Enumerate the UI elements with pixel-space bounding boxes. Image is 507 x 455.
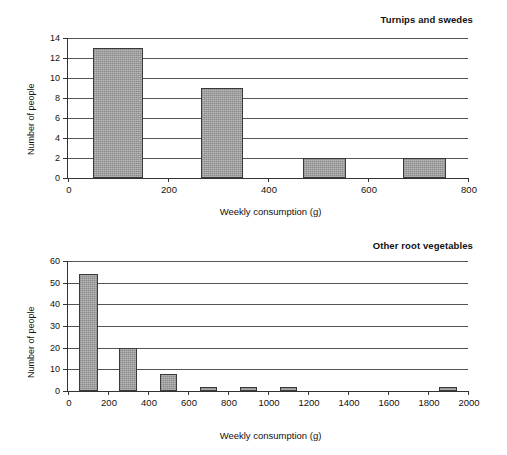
x-axis-tick-label: 1200 [298, 397, 319, 408]
bar [201, 88, 244, 178]
plot-area: 0102030405060020040060080010001200140016… [67, 261, 468, 392]
y-axis-tick: 60 [63, 261, 68, 262]
y-axis-tick-label: 4 [55, 133, 60, 143]
x-axis-tick-label: 600 [181, 397, 197, 408]
y-axis-tick-label: 8 [55, 93, 60, 103]
x-axis-tick: 800 [468, 178, 469, 182]
bar [119, 348, 137, 391]
x-axis-tick: 1800 [428, 391, 429, 395]
x-axis-tick: 0 [68, 391, 69, 395]
y-axis-tick-label: 0 [55, 386, 60, 396]
bar [303, 158, 346, 178]
x-axis-label: Weekly consumption (g) [0, 206, 507, 217]
y-axis-tick-label: 30 [50, 321, 60, 331]
x-axis-tick-label: 1600 [378, 397, 399, 408]
y-axis-tick: 4 [63, 138, 68, 139]
gridline-horizontal [68, 304, 468, 305]
y-axis-tick: 50 [63, 283, 68, 284]
plot-area: 024681012140200400600800 [67, 38, 468, 179]
x-axis-tick: 600 [188, 391, 189, 395]
bar [79, 274, 98, 391]
x-axis-tick: 1200 [308, 391, 309, 395]
x-axis-tick: 800 [228, 391, 229, 395]
y-axis-label: Number of people [26, 83, 36, 155]
x-axis-tick-label: 800 [461, 184, 477, 195]
bar [240, 387, 257, 391]
x-axis-tick: 400 [148, 391, 149, 395]
gridline-horizontal [68, 261, 468, 262]
y-axis-tick-label: 20 [50, 343, 60, 353]
bar [280, 387, 297, 391]
y-axis-tick-label: 10 [50, 73, 60, 83]
chart-title: Turnips and swedes [381, 14, 473, 25]
y-axis-tick: 30 [63, 326, 68, 327]
y-axis-tick-label: 60 [50, 256, 60, 266]
x-axis-tick: 200 [108, 391, 109, 395]
x-axis-tick: 200 [168, 178, 169, 182]
x-axis-tick: 400 [268, 178, 269, 182]
y-axis-tick-label: 0 [55, 173, 60, 183]
y-axis-tick: 14 [63, 38, 68, 39]
x-axis-tick-label: 400 [141, 397, 157, 408]
y-axis-tick-label: 2 [55, 153, 60, 163]
bar [160, 374, 177, 391]
y-axis-tick-label: 12 [50, 53, 60, 63]
y-axis-tick-label: 50 [50, 278, 60, 288]
x-axis-tick-label: 0 [66, 397, 71, 408]
chart-title: Other root vegetables [373, 240, 473, 251]
y-axis-tick: 40 [63, 304, 68, 305]
bar [403, 158, 446, 178]
x-axis-tick-label: 1000 [258, 397, 279, 408]
gridline-horizontal [68, 38, 468, 39]
bar [439, 387, 457, 391]
x-axis-tick-label: 400 [261, 184, 277, 195]
chart-other-root-vegetables: Other root vegetables Number of people 0… [0, 228, 507, 455]
y-axis-tick: 20 [63, 348, 68, 349]
x-axis-tick: 1000 [268, 391, 269, 395]
y-axis-tick-label: 40 [50, 299, 60, 309]
x-axis-tick-label: 0 [66, 184, 71, 195]
x-axis-tick-label: 1400 [338, 397, 359, 408]
bar [200, 387, 217, 391]
x-axis-tick: 1400 [348, 391, 349, 395]
bar [93, 48, 143, 178]
x-axis-tick-label: 800 [221, 397, 237, 408]
x-axis-tick: 2000 [468, 391, 469, 395]
figure-page: Turnips and swedes Number of people 0246… [0, 0, 507, 455]
y-axis-tick: 6 [63, 118, 68, 119]
y-axis-label: Number of people [26, 306, 36, 378]
x-axis-tick: 600 [368, 178, 369, 182]
x-axis-tick-label: 200 [161, 184, 177, 195]
y-axis-tick: 8 [63, 98, 68, 99]
y-axis-tick: 10 [63, 78, 68, 79]
y-axis-tick: 2 [63, 158, 68, 159]
y-axis-tick-label: 14 [50, 33, 60, 43]
gridline-horizontal [68, 283, 468, 284]
x-axis-tick: 0 [68, 178, 69, 182]
gridline-horizontal [68, 326, 468, 327]
y-axis-tick: 10 [63, 369, 68, 370]
x-axis-tick-label: 1800 [418, 397, 439, 408]
x-axis-tick: 1600 [388, 391, 389, 395]
x-axis-tick-label: 200 [101, 397, 117, 408]
y-axis-tick: 12 [63, 58, 68, 59]
x-axis-tick-label: 2000 [458, 397, 479, 408]
y-axis-tick-label: 10 [50, 364, 60, 374]
x-axis-tick-label: 600 [361, 184, 377, 195]
chart-turnips-and-swedes: Turnips and swedes Number of people 0246… [0, 0, 507, 228]
x-axis-label: Weekly consumption (g) [0, 430, 507, 441]
y-axis-tick-label: 6 [55, 113, 60, 123]
